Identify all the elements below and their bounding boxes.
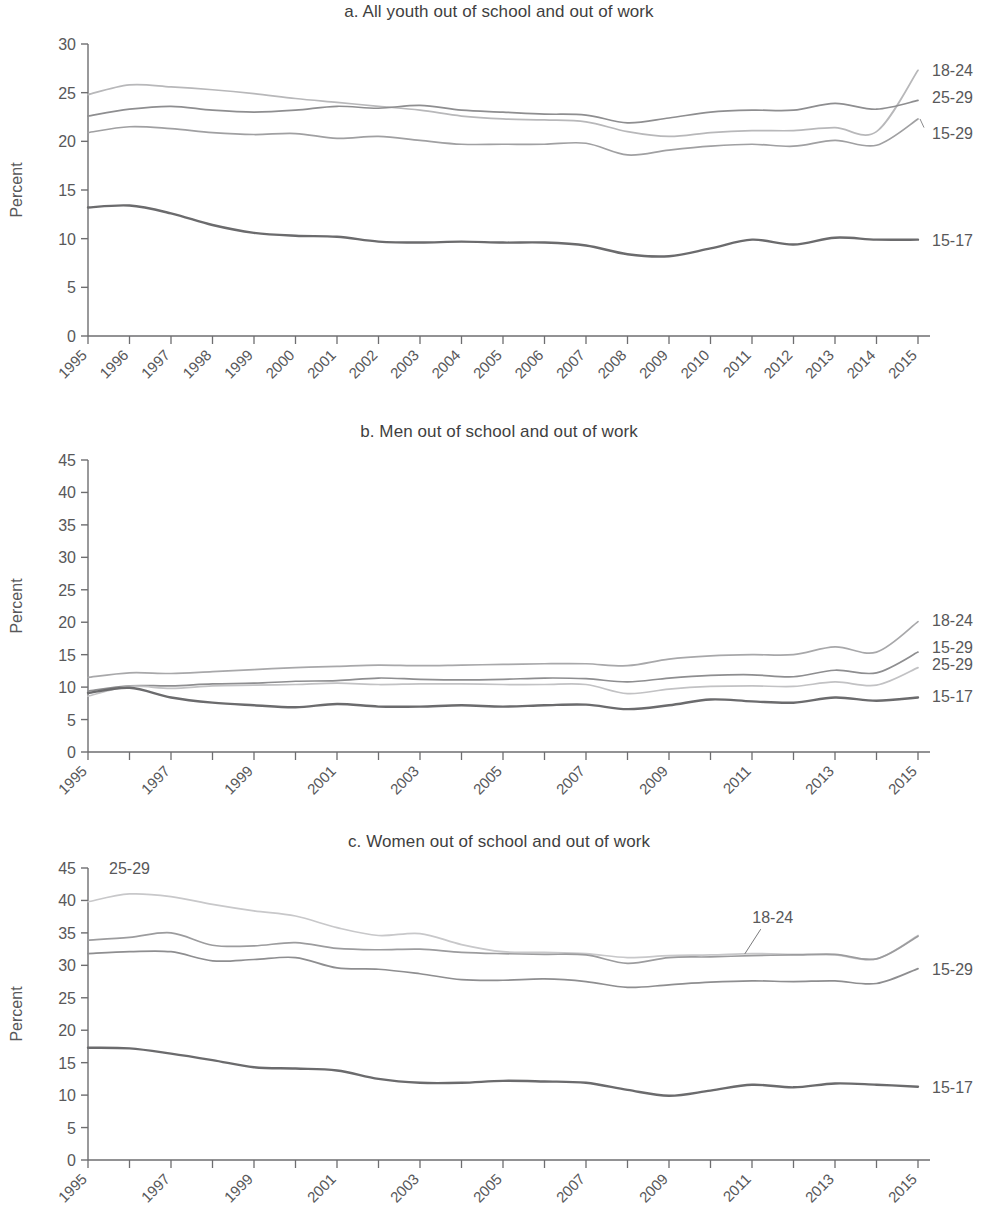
x-tick-label: 1998 (179, 346, 215, 382)
x-tick-label: 2008 (594, 346, 630, 382)
x-tick-label: 1997 (138, 762, 174, 798)
x-tick-label: 1997 (138, 346, 174, 382)
panel-a-plot: 0510152025301995199619971998199920002001… (0, 0, 998, 410)
x-tick-label: 2011 (719, 1170, 754, 1205)
x-tick-label: 2011 (719, 346, 754, 381)
series-line-18-24 (88, 933, 918, 964)
x-tick-label: 2003 (387, 346, 423, 382)
x-tick-label: 1997 (138, 1170, 174, 1206)
x-tick-label: 2004 (428, 346, 464, 382)
y-tick-label: 25 (58, 990, 76, 1007)
x-tick-label: 2000 (262, 346, 298, 382)
series-line-15-29 (88, 951, 918, 988)
series-line-18-24 (88, 70, 918, 136)
x-tick-label: 2007 (553, 1170, 589, 1206)
y-tick-label: 45 (58, 452, 76, 469)
x-tick-label: 1996 (96, 346, 132, 382)
series-line-25-29 (88, 894, 918, 960)
x-tick-label: 2006 (511, 346, 547, 382)
panel-b-plot: 0510152025303540451995199719992001200320… (0, 420, 998, 830)
x-tick-label: 1995 (55, 1170, 91, 1206)
series-line-18-24 (88, 622, 918, 678)
y-tick-label: 35 (58, 925, 76, 942)
x-tick-label: 2013 (802, 762, 838, 798)
x-tick-label: 2012 (760, 346, 796, 382)
y-tick-label: 20 (58, 1022, 76, 1039)
x-tick-label: 2015 (885, 762, 921, 798)
series-label-18-24: 18-24 (932, 612, 973, 629)
x-tick-label: 2003 (387, 1170, 423, 1206)
y-tick-label: 45 (58, 860, 76, 877)
x-tick-label: 2009 (636, 346, 672, 382)
leader-line-15-29 (920, 119, 924, 128)
x-tick-label: 2014 (843, 346, 879, 382)
y-axis-title: Percent (8, 986, 25, 1042)
y-tick-label: 40 (58, 892, 76, 909)
x-tick-label: 1995 (55, 762, 91, 798)
y-tick-label: 5 (67, 712, 76, 729)
x-tick-label: 2010 (677, 346, 713, 382)
y-tick-label: 15 (58, 1055, 76, 1072)
x-tick-label: 1995 (55, 346, 91, 382)
x-tick-label: 2009 (636, 762, 672, 798)
series-line-15-17 (88, 1048, 918, 1096)
y-tick-label: 15 (58, 647, 76, 664)
series-line-15-29 (88, 119, 918, 155)
x-tick-label: 2003 (387, 762, 423, 798)
x-tick-label: 2015 (885, 346, 921, 382)
y-tick-label: 0 (67, 328, 76, 345)
series-label-15-17: 15-17 (932, 232, 973, 249)
x-tick-label: 1999 (221, 1170, 257, 1206)
y-tick-label: 30 (58, 36, 76, 53)
x-tick-label: 2005 (470, 762, 506, 798)
chart-panel-c: c. Women out of school and out of work 0… (0, 830, 998, 1230)
y-tick-label: 0 (67, 1152, 76, 1169)
series-label-15-29: 15-29 (932, 125, 973, 142)
y-tick-label: 10 (58, 1087, 76, 1104)
series-label-15-17: 15-17 (932, 688, 973, 705)
x-tick-label: 2005 (470, 346, 506, 382)
y-axis-title: Percent (8, 578, 25, 634)
series-label-18-24: 18-24 (752, 909, 793, 926)
y-tick-label: 35 (58, 517, 76, 534)
chart-panel-b: b. Men out of school and out of work 051… (0, 420, 998, 830)
series-label-25-29: 25-29 (932, 656, 973, 673)
y-tick-label: 5 (67, 279, 76, 296)
x-tick-label: 1999 (221, 762, 257, 798)
y-tick-label: 30 (58, 549, 76, 566)
y-tick-label: 30 (58, 957, 76, 974)
y-tick-label: 15 (58, 182, 76, 199)
y-tick-label: 0 (67, 744, 76, 761)
series-line-15-17 (88, 688, 918, 709)
x-tick-label: 2001 (304, 346, 340, 382)
x-tick-label: 2001 (304, 762, 340, 798)
x-tick-label: 2011 (719, 762, 754, 797)
x-tick-label: 2013 (802, 346, 838, 382)
leader-line-18-24 (745, 929, 761, 954)
x-tick-label: 2007 (553, 762, 589, 798)
x-tick-label: 2013 (802, 1170, 838, 1206)
series-label-25-29: 25-29 (109, 860, 150, 877)
x-tick-label: 2002 (345, 346, 381, 382)
series-label-15-17: 15-17 (932, 1079, 973, 1096)
x-tick-label: 2007 (553, 346, 589, 382)
panel-c-plot: 0510152025303540451995199719992001200320… (0, 830, 998, 1230)
y-tick-label: 10 (58, 679, 76, 696)
y-tick-label: 10 (58, 231, 76, 248)
x-tick-label: 2009 (636, 1170, 672, 1206)
x-tick-label: 2001 (304, 1170, 340, 1206)
x-tick-label: 1999 (221, 346, 257, 382)
x-tick-label: 2015 (885, 1170, 921, 1206)
series-label-18-24: 18-24 (932, 62, 973, 79)
series-label-25-29: 25-29 (932, 89, 973, 106)
series-label-15-29: 15-29 (932, 961, 973, 978)
y-tick-label: 25 (58, 85, 76, 102)
y-tick-label: 20 (58, 133, 76, 150)
y-axis-title: Percent (8, 162, 25, 218)
y-tick-label: 5 (67, 1120, 76, 1137)
chart-panel-a: a. All youth out of school and out of wo… (0, 0, 998, 410)
series-line-15-17 (88, 205, 918, 256)
y-tick-label: 20 (58, 614, 76, 631)
x-tick-label: 2005 (470, 1170, 506, 1206)
y-tick-label: 25 (58, 582, 76, 599)
